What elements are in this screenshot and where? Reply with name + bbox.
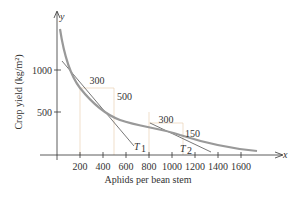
x-axis-symbol: x [282, 149, 288, 160]
chart: 200 400 600 800 1000 1200 1400 1600 1000… [0, 0, 293, 197]
y-axis-symbol: y [59, 11, 65, 22]
svg-text:1000: 1000 [32, 65, 52, 76]
svg-text:1: 1 [141, 143, 146, 154]
axes [40, 11, 283, 160]
y-axis-title: Crop yield (kg/m²) [13, 54, 25, 129]
x-tick-labels: 200 400 600 800 1000 1200 1400 1600 [73, 161, 252, 172]
svg-text:1400: 1400 [208, 161, 228, 172]
svg-text:800: 800 [142, 161, 157, 172]
yield-curve [60, 29, 257, 151]
svg-text:1200: 1200 [185, 161, 205, 172]
svg-text:1600: 1600 [231, 161, 251, 172]
svg-text:T: T [134, 141, 141, 152]
annotation-rise-500: 500 [117, 91, 132, 102]
svg-text:400: 400 [96, 161, 111, 172]
svg-text:2: 2 [187, 145, 192, 156]
svg-text:500: 500 [37, 107, 52, 118]
x-axis-title: Aphids per bean stem [105, 174, 192, 185]
svg-text:1000: 1000 [162, 161, 182, 172]
svg-text:200: 200 [73, 161, 88, 172]
svg-text:T: T [180, 143, 187, 154]
label-t2: T 2 [180, 143, 192, 156]
svg-text:600: 600 [119, 161, 134, 172]
annotation-run-300a: 300 [90, 75, 105, 86]
annotation-run-300b: 300 [159, 114, 174, 125]
y-tick-labels: 1000 500 [32, 65, 52, 118]
label-t1: T 1 [134, 141, 146, 154]
annotation-rise-150: 150 [185, 128, 200, 139]
